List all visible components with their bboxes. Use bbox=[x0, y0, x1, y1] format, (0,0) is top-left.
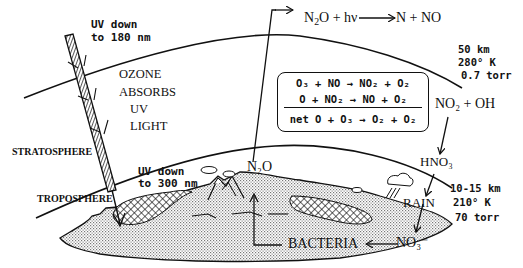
troposphere-label: TROPOSPHERE bbox=[37, 194, 113, 204]
uv-beam bbox=[65, 34, 116, 192]
photon-term: O + hν bbox=[319, 10, 357, 25]
reaction-rhs: NO + O₂ bbox=[362, 93, 406, 105]
rain-cloud-icon bbox=[388, 173, 413, 186]
cloud-icon bbox=[223, 171, 235, 177]
upper-temperature: 280° K bbox=[458, 57, 496, 68]
diagram-canvas bbox=[0, 0, 523, 268]
cloud-icon bbox=[201, 167, 217, 174]
termination-reaction: NO₂ + OH bbox=[435, 97, 495, 111]
lower-temperature: 210° K bbox=[453, 197, 491, 208]
acid-arrow bbox=[426, 174, 434, 196]
ozone-note-line: OZONE bbox=[119, 68, 161, 81]
uv-top-label-2: to 180 nm bbox=[91, 32, 151, 43]
upper-pressure: 0.7 torr bbox=[461, 70, 512, 81]
reaction-rhs: O₂ + O₂ bbox=[372, 113, 416, 125]
termination-arrow bbox=[440, 117, 448, 154]
upper-altitude: 50 km bbox=[458, 44, 490, 55]
lower-altitude: 10-15 km bbox=[450, 183, 501, 194]
ozone-note-line: ABSORBS bbox=[119, 86, 176, 99]
ozone-note-line: UV bbox=[130, 103, 148, 116]
rain-label: RAIN bbox=[403, 196, 435, 209]
stratosphere-label: STRATOSPHERE bbox=[12, 147, 92, 157]
photolysis-products: N + NO bbox=[396, 11, 441, 25]
cloud-icon bbox=[352, 188, 362, 193]
nitric-acid: HNO₃ bbox=[420, 155, 453, 168]
uv-bottom-label-2: to 300 nm bbox=[138, 178, 198, 189]
reaction-rhs: NO₂ + O₂ bbox=[359, 77, 410, 89]
n2o-formula: N bbox=[304, 10, 314, 25]
reaction-lhs: O + O₃ bbox=[315, 113, 353, 125]
reaction-cycle-box: O₃ + NO → NO₂ + O₂ O + NO₂ → NO + O₂ net… bbox=[277, 72, 429, 132]
net-reaction: net O + O₃ → O₂ + O₂ bbox=[284, 113, 422, 125]
photolysis-reaction: N2O + hν bbox=[304, 11, 357, 27]
n2o-label: N₂O bbox=[247, 160, 272, 174]
n2o-to-photolysis-line bbox=[253, 10, 276, 162]
ozone-note-line: LIGHT bbox=[130, 120, 168, 133]
nitrate-label: NO₃⁻ bbox=[396, 236, 428, 250]
uv-bottom-label: UV down bbox=[138, 166, 184, 177]
bacteria-label: BACTERIA bbox=[288, 237, 358, 251]
lower-pressure: 70 torr bbox=[455, 212, 499, 223]
reaction-lhs: O₃ + NO bbox=[296, 77, 340, 89]
reaction-1: O₃ + NO → NO₂ + O₂ bbox=[284, 77, 422, 89]
uv-top-label: UV down bbox=[91, 19, 137, 30]
reaction-2: O + NO₂ → NO + O₂ bbox=[284, 93, 422, 108]
reaction-lhs: O + NO₂ bbox=[299, 93, 343, 105]
net-label: net bbox=[290, 113, 309, 125]
